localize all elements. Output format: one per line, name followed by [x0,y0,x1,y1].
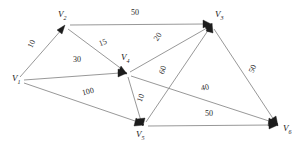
edge-v5-v6[interactable] [148,125,271,126]
edges-group [20,20,278,129]
edge-v4-v3[interactable] [130,28,207,72]
node-subscript-v5: 5 [142,135,145,141]
node-label-v1[interactable]: V1 [12,74,21,87]
node-label-v6[interactable]: V6 [283,124,292,137]
edge-v5-v3[interactable] [146,29,209,122]
node-subscript-v2: 2 [64,15,67,21]
edge-weight-v1-v4: 30 [73,56,81,64]
edge-v1-v2[interactable] [20,28,63,77]
edge-v1-v4[interactable] [24,73,120,80]
edge-weight-v4-v6: 40 [200,83,209,92]
node-subscript-v4: 4 [127,58,130,64]
node-subscript-v1: 1 [18,79,21,85]
arrowhead-v1-v2 [57,25,65,34]
node-subscript-v6: 6 [289,129,292,135]
node-subscript-v3: 3 [221,15,224,21]
node-label-v4[interactable]: V4 [121,53,130,66]
edge-weight-v5-v6: 50 [205,110,213,118]
node-label-v5[interactable]: V5 [136,130,145,143]
edge-v2-v3[interactable] [70,24,205,25]
node-label-v3[interactable]: V3 [215,10,224,23]
node-label-v2[interactable]: V2 [58,10,67,23]
edge-weight-v2-v3: 50 [131,9,139,17]
graph-diagram-canvas: V1 V2 V3 V4 V5 V6 10 50 15 30 100 20 10 … [0,0,303,148]
graph-svg [0,0,303,148]
